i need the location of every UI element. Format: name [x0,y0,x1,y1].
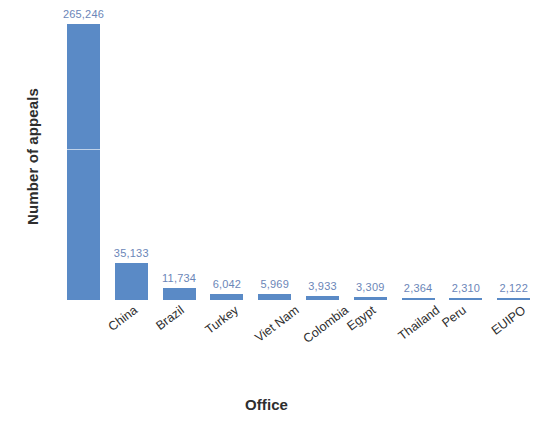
bar-sri-lanka[interactable]: 2,122 [497,0,530,300]
bar-brazil[interactable]: 35,133 [115,0,148,300]
bar-euipo[interactable]: 2,310 [449,0,482,300]
bar-value-label: 2,364 [404,282,433,294]
bar-rect [115,263,148,300]
bar-rect [67,24,100,300]
bar-rect [306,296,339,300]
bar-value-label: 6,042 [213,278,242,290]
bar-value-label: 265,246 [63,8,104,20]
bar-value-label: 2,122 [499,282,528,294]
bar-rect [449,298,482,300]
bar-rect [258,294,291,300]
scan-artifact-line [67,149,100,150]
bar-turkey[interactable]: 11,734 [163,0,196,300]
bar-colombia[interactable]: 5,969 [258,0,291,300]
bar-rect [163,288,196,300]
x-tick-label-viet-nam: Viet Nam [253,303,302,345]
bar-value-label: 11,734 [162,272,196,284]
x-tick-label-brazil: Brazil [153,303,186,333]
bar-china[interactable]: 265,246 [67,0,100,300]
x-tick-label-peru: Peru [439,303,469,330]
bar-value-label: 3,933 [308,280,337,292]
bar-thailand[interactable]: 3,309 [354,0,387,300]
bar-value-label: 5,969 [260,278,289,290]
x-tick-label-egypt: Egypt [344,303,378,333]
bar-viet-nam[interactable]: 6,042 [210,0,243,300]
bar-chart: Number of appeals 265,24635,13311,7346,0… [0,0,533,425]
bar-value-label: 3,309 [356,281,385,293]
plot-area: 265,24635,13311,7346,0425,9693,9333,3092… [0,0,533,300]
x-tick-label-euipo: EUIPO [489,303,528,338]
bar-value-label: 35,133 [114,247,149,259]
bar-value-label: 2,310 [452,282,481,294]
bar-rect [210,294,243,300]
bar-peru[interactable]: 2,364 [402,0,435,300]
bar-rect [497,298,530,300]
bar-rect [354,297,387,300]
x-tick-label-colombia: Colombia [301,303,352,346]
x-tick-label-turkey: Turkey [202,303,241,337]
x-tick-label-thailand: Thailand [395,303,442,343]
bar-egypt[interactable]: 3,933 [306,0,339,300]
bar-rect [402,298,435,300]
x-tick-label-china: China [106,303,141,334]
x-axis-title: Office [0,396,533,413]
